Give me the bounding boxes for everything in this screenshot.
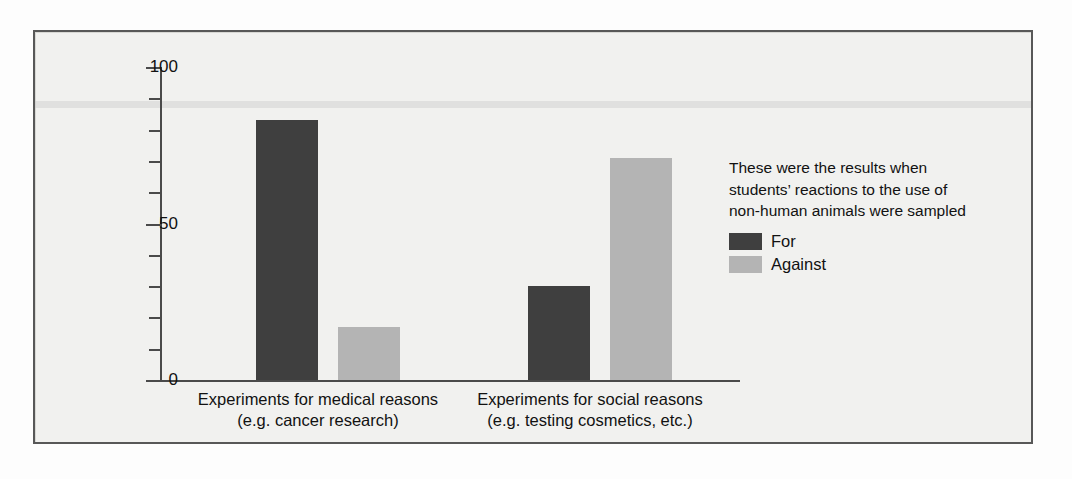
category-label-line: (e.g. testing cosmetics, etc.) <box>430 410 750 431</box>
y-axis-tick-label: 50 <box>159 214 178 234</box>
legend-label: Against <box>771 255 826 274</box>
y-axis-tick-labels: 050100 <box>138 67 178 380</box>
bar-for-group2 <box>528 286 590 380</box>
chart-annotation: These were the results whenstudents’ rea… <box>729 157 1029 222</box>
legend-item-for: For <box>729 230 826 253</box>
legend-swatch-against <box>729 256 762 273</box>
figure-frame: Percentage of students 050100 Experiment… <box>33 30 1033 444</box>
x-axis-line <box>160 380 740 382</box>
annotation-line: non-human animals were sampled <box>729 200 1029 222</box>
y-axis-tick-label: 0 <box>169 370 178 390</box>
annotation-line: students’ reactions to the use of <box>729 179 1029 201</box>
plot-area: 050100 Experiments for medical reasons(e… <box>160 67 740 380</box>
legend-item-against: Against <box>729 253 826 276</box>
bar-against-group2 <box>610 158 672 380</box>
legend-label: For <box>771 232 796 251</box>
x-axis-category-label-2: Experiments for social reasons(e.g. test… <box>430 389 750 431</box>
legend-swatch-for <box>729 233 762 250</box>
y-axis-tick-label: 100 <box>150 57 178 77</box>
annotation-line: These were the results when <box>729 157 1029 179</box>
y-axis-major-tick <box>146 380 160 382</box>
bar-against-group1 <box>338 327 400 380</box>
category-label-line: Experiments for social reasons <box>430 389 750 410</box>
chart-legend: ForAgainst <box>729 230 826 276</box>
bar-for-group1 <box>256 120 318 380</box>
